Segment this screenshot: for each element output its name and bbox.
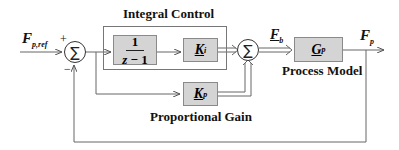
denominator-const: 1 — [141, 52, 148, 67]
integrator-denominator: z − 1 — [122, 51, 147, 66]
minus-sign: − — [64, 62, 71, 77]
integrator-numerator: 1 — [126, 35, 145, 51]
output-signal-sub: p — [370, 37, 374, 46]
sigma-icon: ∑ — [70, 44, 79, 60]
kp-main: K — [194, 86, 203, 102]
proportional-gain-title: Proportional Gain — [150, 109, 252, 125]
kp-gain-block: Kp — [183, 82, 218, 106]
bias-signal-sub: b — [279, 36, 283, 45]
ki-gain-block: Ki — [183, 38, 218, 62]
denominator-op: − — [131, 52, 138, 67]
integrator-block: 1 z − 1 — [113, 35, 157, 65]
input-signal-main: F — [22, 30, 32, 46]
output-signal-main: F — [360, 27, 370, 43]
sigma-icon: ∑ — [243, 42, 252, 58]
ki-main: K — [195, 42, 204, 58]
process-model-title: Process Model — [282, 63, 362, 79]
output-signal-label: Fp — [360, 27, 374, 46]
input-signal-sub: p,ref — [32, 40, 47, 49]
integral-control-title: Integral Control — [123, 6, 214, 22]
gp-process-block: Gp — [294, 37, 343, 62]
denominator-var: z — [122, 52, 127, 67]
input-signal-label: Fp,ref — [22, 30, 47, 49]
bias-signal-label: Fb — [270, 27, 283, 45]
ki-sub: i — [204, 46, 206, 55]
gp-main: G — [311, 42, 321, 58]
kp-sub: p — [203, 90, 207, 99]
gp-sub: p — [322, 45, 326, 54]
right-summing-junction: ∑ — [237, 39, 259, 61]
bias-signal-main: F — [270, 27, 279, 42]
left-summing-junction: ∑ — [64, 41, 86, 63]
